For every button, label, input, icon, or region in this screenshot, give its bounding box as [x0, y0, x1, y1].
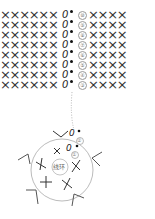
increase-marks: [18, 152, 102, 206]
round-1-turning-chain: 0: [66, 143, 72, 153]
magic-ring-diagram: [0, 0, 155, 219]
increase-stitch-icon: [53, 131, 68, 137]
round-2-number: ②: [77, 137, 81, 143]
connector-line: [71, 92, 74, 130]
round-2-turning-chain: 0: [69, 128, 75, 138]
round-1-number: ①: [72, 151, 76, 157]
center-label: 线环: [53, 162, 65, 171]
